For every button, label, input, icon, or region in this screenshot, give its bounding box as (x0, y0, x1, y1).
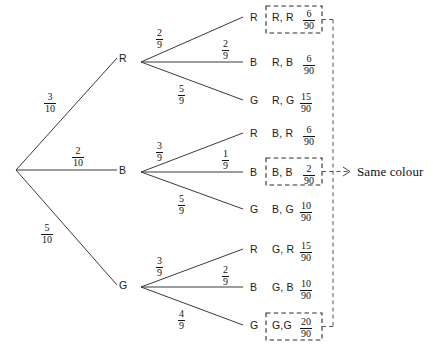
probability-tree-diagram: R B G 3 10 2 10 5 10 2 9 2 9 5 9 3 9 1 9… (0, 0, 433, 354)
prob-root-G: 5 10 (41, 223, 53, 246)
result-prob-RG: 15 90 (300, 92, 312, 115)
leaf-node-letter-RR: R (250, 12, 258, 23)
leaf-node-letter-BB: B (250, 167, 257, 178)
leaf-node-letter-RB: B (250, 57, 257, 68)
outcome-label-GG: G,G (272, 320, 292, 331)
leaf-node-letter-RG: G (250, 95, 258, 106)
branch-R-to-G (141, 62, 243, 100)
outcome-label-RG: R, G (272, 95, 294, 106)
prob-B-R: 3 9 (156, 141, 163, 164)
prob-R-B: 2 9 (222, 39, 229, 62)
leaf-node-letter-GB: B (250, 282, 257, 293)
prob-G-R: 3 9 (156, 256, 163, 279)
prob-R-R: 2 9 (156, 28, 163, 51)
prob-G-B: 2 9 (222, 265, 229, 288)
result-prob-BG: 10 90 (300, 201, 312, 224)
leaf-node-letter-BR: R (250, 128, 258, 139)
result-prob-RR: 6 90 (303, 9, 315, 32)
outcome-label-BB: B, B (272, 167, 293, 178)
branch-root-to-G (16, 170, 117, 285)
prob-B-G: 5 9 (178, 194, 185, 217)
outcome-label-BR: B, R (272, 128, 293, 139)
node-level1-R: R (119, 53, 127, 64)
leaf-node-letter-GG: G (250, 320, 258, 331)
branch-B-to-G (141, 172, 243, 209)
outcome-label-GB: G, B (272, 282, 294, 293)
result-prob-GG: 20 90 (300, 317, 312, 340)
leaf-node-letter-GR: R (250, 244, 258, 255)
branch-root-to-R (16, 58, 117, 170)
branch-G-to-G (141, 287, 243, 325)
result-prob-GR: 15 90 (300, 241, 312, 264)
same-colour-connector (322, 20, 348, 327)
outcome-label-BG: B, G (272, 204, 294, 215)
outcome-label-GR: G, R (272, 244, 294, 255)
leaf-node-letter-BG: G (250, 204, 258, 215)
result-prob-BB: 2 90 (303, 164, 315, 187)
prob-root-B: 2 10 (72, 146, 84, 169)
prob-B-B: 1 9 (222, 149, 229, 172)
prob-G-G: 4 9 (178, 309, 185, 332)
result-prob-BR: 6 90 (303, 125, 315, 148)
level1-branches (16, 58, 117, 285)
outcome-label-RB: R, B (272, 57, 293, 68)
node-level1-B: B (119, 165, 126, 176)
result-prob-RB: 6 90 (303, 54, 315, 77)
prob-root-R: 3 10 (44, 92, 56, 115)
outcome-label-RR: R, R (272, 12, 294, 23)
prob-R-G: 5 9 (178, 84, 185, 107)
result-prob-GB: 10 90 (300, 279, 312, 302)
node-level1-G: G (119, 280, 127, 291)
same-colour-annotation: Same colour (357, 165, 423, 178)
